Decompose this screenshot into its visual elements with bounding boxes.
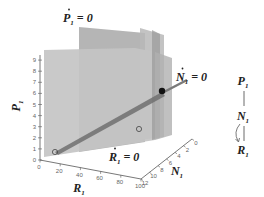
r-tick-label: 40: [76, 172, 83, 178]
p-tick-label: 4: [33, 113, 37, 119]
p-tick-label: 9: [33, 57, 37, 63]
p-tick-label: 6: [33, 90, 37, 96]
p-tick-label: 2: [33, 135, 37, 141]
food-chain-middle: N1: [236, 109, 249, 125]
n-tick-label: 4: [177, 153, 181, 159]
n-tick-label: 0: [194, 140, 198, 146]
svg-text:P1= 0: P1= 0: [63, 11, 93, 27]
p-axis-label: P1: [9, 101, 25, 112]
n-tick-label: 8: [160, 167, 164, 173]
p-tick-label: 3: [33, 124, 37, 130]
n-axis-ticks: 121086420: [141, 139, 198, 186]
derivative-dot: [114, 148, 116, 150]
n-nullcline-label: N1= 0: [175, 68, 207, 86]
r-axis-ticks: 020406080100: [37, 160, 145, 189]
r-nullcline-plane: [44, 48, 155, 157]
svg-text:R1= 0: R1= 0: [108, 150, 139, 166]
svg-text:P1: P1: [9, 101, 25, 112]
derivative-dot: [68, 9, 70, 11]
p-nullcline-label: P1= 0: [63, 9, 93, 27]
r-tick-label: 20: [56, 168, 63, 174]
n-tick-label: 10: [150, 173, 157, 179]
r-nullcline-label: R1= 0: [108, 148, 139, 166]
svg-text:N1= 0: N1= 0: [175, 70, 207, 86]
p-tick-label: 1: [33, 146, 37, 152]
r-tick-label: 80: [116, 179, 123, 185]
r-axis-label: R1: [72, 181, 85, 197]
derivative-dot: [182, 68, 184, 70]
r-tick-label: 60: [96, 175, 103, 181]
food-chain-bottom: R1: [236, 143, 249, 159]
phase-space-diagram: 0123456789 020406080100 121086420 P1 R1 …: [0, 0, 264, 197]
p-axis-ticks: 0123456789: [33, 57, 42, 163]
p-tick-label: 5: [33, 102, 37, 108]
n-axis-label: N1: [170, 164, 183, 180]
food-chain-top: P1: [238, 74, 249, 90]
food-chain-diagram: P1 N1 R1: [236, 74, 250, 159]
n-tick-label: 2: [186, 147, 190, 153]
p-tick-label: 7: [33, 79, 37, 85]
stable-equilibrium-point: [159, 88, 165, 94]
p-tick-label: 0: [33, 157, 37, 163]
n-tick-label: 12: [142, 180, 149, 186]
r-tick-label: 0: [37, 164, 41, 170]
p-tick-label: 8: [33, 68, 37, 74]
